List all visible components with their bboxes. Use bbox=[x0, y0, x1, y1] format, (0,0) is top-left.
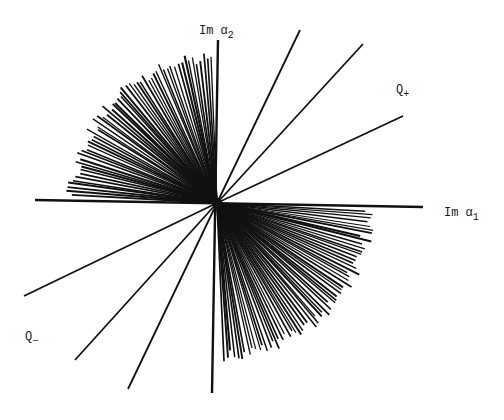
label-im-alpha1-main: Im α bbox=[444, 206, 473, 220]
q-minus-lines bbox=[24, 203, 217, 389]
q-minus-ray bbox=[24, 203, 217, 296]
q-plus-ray bbox=[217, 44, 363, 203]
fan-plot bbox=[0, 0, 504, 420]
q-minus-ray bbox=[128, 203, 217, 389]
origin-hub bbox=[212, 198, 222, 208]
q-plus-ray bbox=[217, 116, 403, 203]
label-q-minus-sub: − bbox=[32, 336, 38, 347]
upper-left-fan bbox=[66, 54, 217, 204]
label-q-plus-sub: + bbox=[403, 89, 409, 100]
label-im-alpha2: Im α2 bbox=[199, 25, 234, 41]
label-im-alpha2-main: Im α bbox=[199, 24, 228, 38]
diagram-canvas: Im α2 Im α1 Q+ Q− bbox=[0, 0, 504, 420]
label-q-plus: Q+ bbox=[396, 84, 409, 100]
label-im-alpha1: Im α1 bbox=[444, 207, 479, 223]
q-minus-ray bbox=[75, 203, 217, 360]
q-plus-lines bbox=[217, 30, 403, 203]
q-plus-ray bbox=[217, 30, 300, 203]
label-im-alpha2-sub: 2 bbox=[228, 30, 234, 41]
label-q-minus: Q− bbox=[25, 331, 38, 347]
label-im-alpha1-sub: 1 bbox=[473, 212, 479, 223]
lower-right-fan bbox=[217, 203, 373, 361]
